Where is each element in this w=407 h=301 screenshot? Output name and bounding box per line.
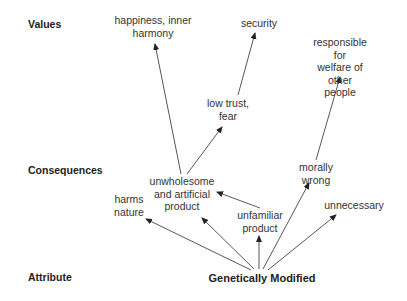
edge-unwholesome-low-trust — [187, 127, 222, 174]
node-morally-wrong: morally wrong — [299, 161, 333, 186]
edge-gm-harms-nature — [146, 219, 251, 270]
node-harms-nature: harms nature — [114, 193, 144, 218]
edge-unfamiliar-unwholesome — [217, 192, 260, 208]
level-label-consequences: Consequences — [28, 164, 103, 176]
node-unwholesome-artificial: unwholesome and artificial product — [150, 175, 215, 213]
edge-low-trust-security — [238, 33, 255, 95]
node-security: security — [241, 17, 277, 30]
node-responsible-for-welfare: responsible for welfare of other people — [307, 36, 374, 99]
node-low-trust-fear: low trust, fear — [207, 97, 249, 122]
level-label-attribute: Attribute — [28, 271, 72, 283]
node-unfamiliar-product: unfamiliar product — [237, 209, 283, 234]
edge-unwholesome-happiness — [155, 44, 181, 174]
node-genetically-modified: Genetically Modified — [209, 272, 316, 285]
node-unnecessary: unnecessary — [324, 199, 384, 212]
level-label-values: Values — [28, 18, 61, 30]
node-happiness-inner-harmony: happiness, inner harmony — [114, 14, 191, 39]
